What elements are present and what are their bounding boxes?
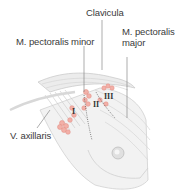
clavicula-shape — [38, 73, 135, 92]
label-pectoralis-major-line1: M. pectoralis — [122, 27, 175, 37]
label-pectoralis-major-line2: major — [122, 38, 145, 48]
label-clavicula: Clavicula — [86, 8, 124, 18]
label-v-axillaris: V. axillaris — [10, 131, 51, 141]
level-III-label: III — [104, 92, 113, 101]
level-I-label: I — [72, 107, 75, 116]
axillary-lymph-node-diagram: Clavicula M. pectoralis minor M. pectora… — [0, 0, 181, 194]
label-pectoralis-minor: M. pectoralis minor — [16, 37, 94, 47]
level-II-label: II — [93, 100, 99, 109]
